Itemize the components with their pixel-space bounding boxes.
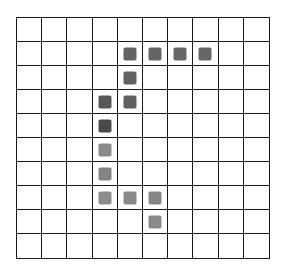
grid-cell[interactable] <box>118 90 143 114</box>
grid-cell[interactable] <box>219 42 244 66</box>
grid-cell[interactable] <box>168 42 193 66</box>
grid-cell[interactable] <box>118 42 143 66</box>
grid-cell[interactable] <box>193 162 218 186</box>
grid-cell[interactable] <box>219 162 244 186</box>
grid-cell[interactable] <box>219 234 244 258</box>
grid-cell[interactable] <box>193 42 218 66</box>
grid-cell[interactable] <box>193 90 218 114</box>
grid-cell[interactable] <box>244 42 269 66</box>
grid-cell[interactable] <box>193 114 218 138</box>
grid-cell[interactable] <box>118 234 143 258</box>
grid-cell[interactable] <box>67 114 92 138</box>
grid-cell[interactable] <box>244 210 269 234</box>
grid-cell[interactable] <box>244 66 269 90</box>
grid-cell[interactable] <box>193 18 218 42</box>
grid-cell[interactable] <box>143 114 168 138</box>
grid-cell[interactable] <box>67 18 92 42</box>
grid-cell[interactable] <box>17 114 42 138</box>
grid-cell[interactable] <box>67 42 92 66</box>
grid-cell[interactable] <box>67 234 92 258</box>
grid-cell[interactable] <box>42 66 67 90</box>
grid-cell[interactable] <box>118 186 143 210</box>
grid-cell[interactable] <box>118 138 143 162</box>
grid-cell[interactable] <box>93 234 118 258</box>
grid-cell[interactable] <box>118 162 143 186</box>
grid-cell[interactable] <box>143 42 168 66</box>
grid-cell[interactable] <box>168 114 193 138</box>
grid-cell[interactable] <box>93 186 118 210</box>
grid-cell[interactable] <box>67 210 92 234</box>
grid-cell[interactable] <box>17 90 42 114</box>
grid-cell[interactable] <box>93 66 118 90</box>
grid-cell[interactable] <box>67 162 92 186</box>
grid-cell[interactable] <box>244 90 269 114</box>
grid-cell[interactable] <box>244 138 269 162</box>
grid-cell[interactable] <box>143 66 168 90</box>
grid-cell[interactable] <box>143 162 168 186</box>
grid-cell[interactable] <box>93 42 118 66</box>
grid-cell[interactable] <box>193 210 218 234</box>
grid-cell[interactable] <box>93 90 118 114</box>
grid-cell[interactable] <box>244 234 269 258</box>
grid-cell[interactable] <box>67 138 92 162</box>
grid-cell[interactable] <box>244 114 269 138</box>
grid-cell[interactable] <box>168 186 193 210</box>
grid-cell[interactable] <box>168 162 193 186</box>
grid-cell[interactable] <box>168 18 193 42</box>
grid-cell[interactable] <box>118 18 143 42</box>
grid-cell[interactable] <box>93 162 118 186</box>
grid-cell[interactable] <box>219 90 244 114</box>
grid-cell[interactable] <box>244 18 269 42</box>
grid-cell[interactable] <box>42 210 67 234</box>
grid-cell[interactable] <box>193 66 218 90</box>
grid-cell[interactable] <box>118 210 143 234</box>
grid-cell[interactable] <box>168 210 193 234</box>
grid-cell[interactable] <box>193 234 218 258</box>
grid-cell[interactable] <box>17 186 42 210</box>
grid-cell[interactable] <box>42 186 67 210</box>
grid-cell[interactable] <box>168 234 193 258</box>
grid-cell[interactable] <box>168 90 193 114</box>
grid-cell[interactable] <box>168 138 193 162</box>
grid-cell[interactable] <box>17 162 42 186</box>
grid-cell[interactable] <box>93 210 118 234</box>
grid-cell[interactable] <box>67 66 92 90</box>
grid-cell[interactable] <box>168 66 193 90</box>
grid-cell[interactable] <box>143 90 168 114</box>
grid-cell[interactable] <box>143 138 168 162</box>
grid-cell[interactable] <box>219 66 244 90</box>
grid-cell[interactable] <box>17 234 42 258</box>
grid-cell[interactable] <box>143 210 168 234</box>
grid-cell[interactable] <box>17 138 42 162</box>
grid-cell[interactable] <box>42 162 67 186</box>
grid-cell[interactable] <box>42 138 67 162</box>
grid-cell[interactable] <box>17 210 42 234</box>
grid-cell[interactable] <box>118 114 143 138</box>
grid-cell[interactable] <box>93 138 118 162</box>
grid-cell[interactable] <box>143 18 168 42</box>
grid-cell[interactable] <box>93 18 118 42</box>
grid-cell[interactable] <box>42 18 67 42</box>
grid-cell[interactable] <box>93 114 118 138</box>
grid-cell[interactable] <box>143 186 168 210</box>
grid-cell[interactable] <box>244 162 269 186</box>
grid-cell[interactable] <box>219 210 244 234</box>
grid-cell[interactable] <box>244 186 269 210</box>
grid-cell[interactable] <box>42 234 67 258</box>
grid-cell[interactable] <box>17 42 42 66</box>
grid-cell[interactable] <box>17 18 42 42</box>
grid-cell[interactable] <box>219 18 244 42</box>
grid-cell[interactable] <box>17 66 42 90</box>
grid-cell[interactable] <box>193 138 218 162</box>
grid-cell[interactable] <box>143 234 168 258</box>
grid-cell[interactable] <box>42 114 67 138</box>
grid-cell[interactable] <box>219 138 244 162</box>
grid-cell[interactable] <box>42 42 67 66</box>
grid-cell[interactable] <box>42 90 67 114</box>
grid-cell[interactable] <box>219 114 244 138</box>
grid-cell[interactable] <box>219 186 244 210</box>
grid-cell[interactable] <box>193 186 218 210</box>
grid-cell[interactable] <box>67 90 92 114</box>
grid-cell[interactable] <box>67 186 92 210</box>
grid-cell[interactable] <box>118 66 143 90</box>
